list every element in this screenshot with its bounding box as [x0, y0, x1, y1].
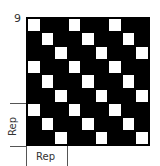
light-stitch-cell	[82, 75, 94, 87]
dark-stitch-cell	[41, 89, 55, 103]
dark-stitch-cell	[41, 18, 55, 32]
light-stitch-cell	[69, 61, 81, 73]
light-stitch-cell	[96, 132, 108, 144]
dark-stitch-cell	[54, 103, 68, 117]
light-stitch-cell	[123, 118, 135, 130]
dark-stitch-cell	[95, 103, 109, 117]
dark-stitch-cell	[68, 46, 82, 60]
rep-left-bottom-tick	[10, 146, 26, 147]
dark-stitch-cell	[122, 103, 136, 117]
dark-stitch-cell	[68, 117, 82, 131]
dark-stitch-cell	[95, 74, 109, 88]
rep-bottom-left-tick	[26, 146, 27, 166]
light-stitch-cell	[28, 61, 40, 73]
light-stitch-cell	[55, 47, 67, 59]
light-stitch-cell	[136, 47, 148, 59]
dark-stitch-cell	[27, 46, 41, 60]
dark-stitch-cell	[54, 32, 68, 46]
light-stitch-cell	[55, 90, 67, 102]
rep-horizontal-label: Rep	[36, 151, 55, 162]
light-stitch-cell	[82, 33, 94, 45]
dark-stitch-cell	[95, 117, 109, 131]
row-count-label: 9	[14, 13, 21, 24]
dark-stitch-cell	[135, 117, 149, 131]
dark-stitch-cell	[95, 18, 109, 32]
light-stitch-cell	[28, 104, 40, 116]
dark-stitch-cell	[135, 32, 149, 46]
dark-stitch-cell	[135, 74, 149, 88]
dark-stitch-cell	[27, 117, 41, 131]
light-stitch-cell	[82, 118, 94, 130]
dark-stitch-cell	[41, 46, 55, 60]
dark-stitch-cell	[41, 103, 55, 117]
dark-stitch-cell	[68, 32, 82, 46]
dark-stitch-cell	[68, 131, 82, 145]
light-stitch-cell	[42, 118, 54, 130]
dark-stitch-cell	[108, 117, 122, 131]
dark-stitch-cell	[108, 89, 122, 103]
dark-stitch-cell	[27, 74, 41, 88]
dark-stitch-cell	[108, 46, 122, 60]
rep-vertical-label: Rep	[7, 117, 18, 136]
dark-stitch-cell	[27, 89, 41, 103]
dark-stitch-cell	[68, 89, 82, 103]
dark-stitch-cell	[122, 60, 136, 74]
dark-stitch-cell	[108, 32, 122, 46]
dark-stitch-cell	[122, 131, 136, 145]
light-stitch-cell	[109, 19, 121, 31]
dark-stitch-cell	[81, 89, 95, 103]
chart-grid	[26, 17, 150, 146]
rep-bottom-right-tick	[67, 146, 68, 166]
light-stitch-cell	[123, 75, 135, 87]
light-stitch-cell	[123, 33, 135, 45]
dark-stitch-cell	[41, 131, 55, 145]
dark-stitch-cell	[54, 74, 68, 88]
dark-stitch-cell	[135, 103, 149, 117]
dark-stitch-cell	[54, 18, 68, 32]
dark-stitch-cell	[81, 46, 95, 60]
dark-stitch-cell	[54, 117, 68, 131]
dark-stitch-cell	[41, 60, 55, 74]
dark-stitch-cell	[81, 131, 95, 145]
light-stitch-cell	[109, 104, 121, 116]
dark-stitch-cell	[81, 18, 95, 32]
light-stitch-cell	[109, 61, 121, 73]
light-stitch-cell	[136, 90, 148, 102]
dark-stitch-cell	[95, 32, 109, 46]
light-stitch-cell	[69, 104, 81, 116]
dark-stitch-cell	[27, 131, 41, 145]
light-stitch-cell	[96, 90, 108, 102]
dark-stitch-cell	[108, 74, 122, 88]
dark-stitch-cell	[122, 18, 136, 32]
dark-stitch-cell	[54, 60, 68, 74]
dark-stitch-cell	[135, 18, 149, 32]
dark-stitch-cell	[68, 74, 82, 88]
dark-stitch-cell	[27, 32, 41, 46]
dark-stitch-cell	[81, 60, 95, 74]
dark-stitch-cell	[81, 103, 95, 117]
light-stitch-cell	[136, 132, 148, 144]
dark-stitch-cell	[122, 46, 136, 60]
dark-stitch-cell	[95, 60, 109, 74]
light-stitch-cell	[55, 132, 67, 144]
light-stitch-cell	[96, 47, 108, 59]
light-stitch-cell	[69, 19, 81, 31]
rep-left-top-tick	[10, 103, 26, 104]
dark-stitch-cell	[108, 131, 122, 145]
light-stitch-cell	[42, 75, 54, 87]
dark-stitch-cell	[135, 60, 149, 74]
light-stitch-cell	[42, 33, 54, 45]
light-stitch-cell	[28, 19, 40, 31]
dark-stitch-cell	[122, 89, 136, 103]
